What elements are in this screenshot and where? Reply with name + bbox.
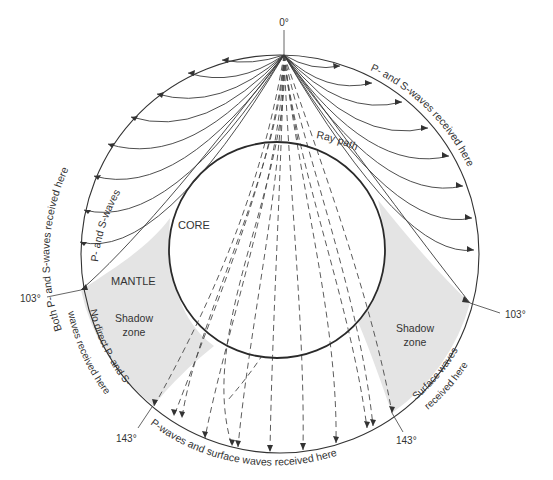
tick-right-143: [392, 413, 403, 432]
label-left-outer-arc: Both P- and S-waves received here: [39, 165, 70, 334]
seismic-diagram: 0° 103° 103° 143° 143° CORE MANTLE Shado…: [0, 0, 553, 480]
mantle-label: MANTLE: [111, 275, 156, 287]
core-label: CORE: [178, 219, 210, 231]
shadow-zone-right-label-2: zone: [404, 336, 427, 348]
angle-label-0: 0°: [279, 17, 289, 28]
tick-right-103: [470, 303, 500, 313]
label-bottom-arc: P-waves and surface waves received here: [149, 416, 338, 468]
angle-label-right-143: 143°: [396, 435, 417, 446]
label-right-outer-arc: P- and S-waves received here: [369, 61, 477, 168]
angle-label-left-143: 143°: [116, 433, 137, 444]
shadow-zone-left-label-2: zone: [123, 326, 146, 338]
shadow-zone-right-label-1: Shadow: [396, 322, 434, 334]
angle-label-right-103: 103°: [505, 309, 526, 320]
shadow-zone-left-label-1: Shadow: [115, 312, 153, 324]
angle-label-left-103: 103°: [20, 293, 41, 304]
label-left-inner-arc: P- and S-waves: [88, 187, 122, 262]
diagram-canvas: 0° 103° 103° 143° 143° CORE MANTLE Shado…: [0, 0, 553, 480]
